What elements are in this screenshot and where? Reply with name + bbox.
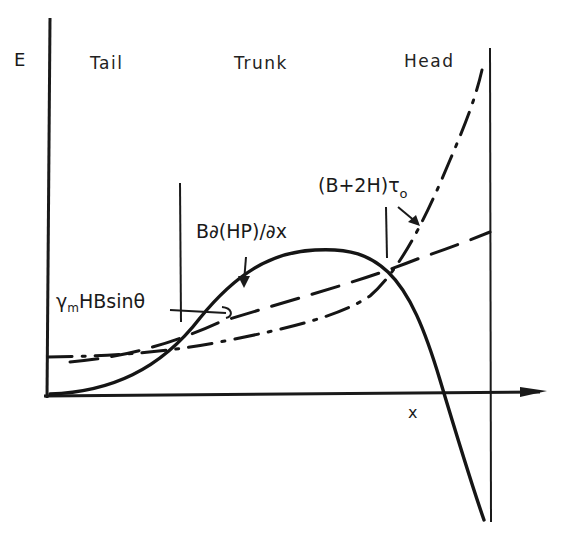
friction-label-main: (B+2H)τ [318, 174, 400, 196]
x-axis [44, 392, 540, 396]
diagram-canvas: E x Tail Trunk Head B∂(HP)/∂x γmHBsinθ (… [0, 0, 563, 547]
pressure-gradient-label: B∂(HP)/∂x [196, 220, 287, 242]
y-axis [47, 18, 50, 398]
trunk-head-divider [386, 207, 387, 258]
region-label-trunk: Trunk [233, 53, 288, 73]
x-axis-label: x [408, 403, 417, 422]
gravity-label-leader [170, 310, 226, 313]
gravity-label: γmHBsinθ [56, 290, 145, 315]
gravity-label-gamma: γ [56, 290, 67, 312]
y-axis-label: E [14, 49, 25, 70]
region-label-head: Head [404, 51, 454, 71]
head-boundary-line [490, 48, 491, 522]
pressure-leader-arrow-icon [238, 276, 250, 288]
friction-label-subscript: o [400, 186, 408, 201]
tail-trunk-divider [180, 183, 181, 322]
gravity-label-subscript: m [67, 301, 79, 315]
gravity-label-rest: HBsinθ [79, 290, 145, 312]
friction-label: (B+2H)τo [318, 174, 408, 201]
region-label-tail: Tail [89, 53, 123, 73]
x-axis-arrow-icon [520, 387, 547, 397]
